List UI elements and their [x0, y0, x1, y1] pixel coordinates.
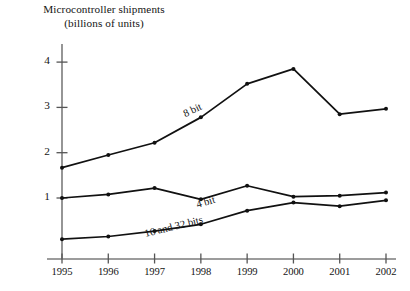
x-axis-tick-label: 1995 — [38, 266, 86, 277]
data-point-marker — [384, 191, 388, 195]
data-point-marker — [106, 192, 110, 196]
series-markers — [60, 67, 388, 241]
data-point-marker — [338, 204, 342, 208]
chart-figure: Microcontroller shipments (billions of u… — [0, 0, 410, 291]
x-axis-tick-label: 2001 — [316, 266, 364, 277]
data-point-marker — [245, 82, 249, 86]
x-axis-tick-label: 1997 — [131, 266, 179, 277]
data-point-marker — [291, 201, 295, 205]
chart-svg — [0, 0, 410, 291]
series-lines — [62, 69, 386, 239]
data-point-marker — [60, 166, 64, 170]
x-axis-tick-label: 2002 — [362, 266, 410, 277]
x-axis-tick-label: 2000 — [269, 266, 317, 277]
series-line — [62, 69, 386, 168]
data-point-marker — [106, 153, 110, 157]
data-point-marker — [199, 115, 203, 119]
data-point-marker — [153, 186, 157, 190]
y-axis-tick-label: 4 — [28, 54, 50, 66]
plot-area — [0, 0, 410, 291]
x-axis-tick-label: 1998 — [177, 266, 225, 277]
data-point-marker — [338, 194, 342, 198]
series-line — [62, 186, 386, 200]
data-point-marker — [291, 67, 295, 71]
x-axis-tick-label: 1999 — [223, 266, 271, 277]
data-point-marker — [291, 195, 295, 199]
data-point-marker — [384, 107, 388, 111]
data-point-marker — [338, 112, 342, 116]
series-line — [62, 200, 386, 239]
x-axis-tick-label: 1996 — [84, 266, 132, 277]
data-point-marker — [60, 237, 64, 241]
y-axis-tick-label: 3 — [28, 99, 50, 111]
data-point-marker — [384, 198, 388, 202]
data-point-marker — [245, 184, 249, 188]
y-axis-tick-label: 2 — [28, 145, 50, 157]
data-point-marker — [60, 196, 64, 200]
data-point-marker — [106, 235, 110, 239]
y-axis-tick-label: 1 — [28, 190, 50, 202]
data-point-marker — [153, 141, 157, 145]
data-point-marker — [245, 209, 249, 213]
